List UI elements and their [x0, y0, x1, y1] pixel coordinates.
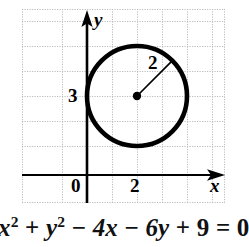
circle-graph — [22, 9, 225, 203]
equation-term-0: 0 — [237, 214, 249, 241]
radius-length-label: 2 — [148, 53, 158, 72]
origin-label-0: 0 — [71, 176, 81, 195]
circle-center-point — [133, 92, 141, 100]
y-axis-label: y — [94, 10, 102, 29]
equation-operator-4: + — [176, 214, 190, 241]
equation-term-6y: 6y — [145, 214, 169, 241]
plot-area — [22, 9, 225, 203]
equation-exponent-2: 2 — [57, 213, 65, 230]
equation-operator-1: + — [25, 214, 39, 241]
equation-operator-equals: = — [216, 214, 230, 241]
x-axis-label: x — [210, 176, 220, 195]
equation-term-x: x — [0, 214, 11, 241]
equation-caption: x2 + y2 − 4x − 6y + 9 = 0 — [0, 209, 249, 247]
x-axis-tick-label-2: 2 — [130, 176, 140, 195]
equation-term-4x: 4x — [93, 214, 118, 241]
equation-term-9: 9 — [197, 214, 210, 241]
equation-term-y: y — [46, 214, 57, 241]
equation-operator-3: − — [124, 214, 138, 241]
equation-exponent-1: 2 — [11, 213, 19, 230]
y-axis-tick-label-3: 3 — [68, 86, 78, 105]
circle-equation-figure: y x 3 0 2 2 x2 + y2 − 4x − 6y + 9 = 0 — [0, 0, 249, 247]
equation-operator-2: − — [72, 214, 86, 241]
